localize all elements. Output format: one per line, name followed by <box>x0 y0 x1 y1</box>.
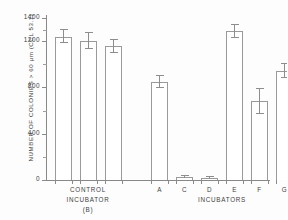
bar-chart-figure: NUMBER OF COLONIES > 60 µm (CCL 53.1) 14… <box>0 0 287 220</box>
x-tick-control-2-left <box>80 180 81 184</box>
error-cap-bottom-control-2 <box>85 48 93 49</box>
bar-control-1 <box>55 37 72 181</box>
x-tick-control-3-right <box>122 180 123 184</box>
y-tick-label-1400: 1400 <box>24 13 40 20</box>
error-bar-incubator-d <box>209 177 210 179</box>
x-label-c: C <box>176 186 193 193</box>
error-cap-bottom-incubator-g <box>281 77 288 78</box>
error-bar-control-2 <box>88 33 89 49</box>
x-tick-d-left <box>201 180 202 184</box>
error-cap-top-incubator-f <box>256 88 264 89</box>
y-tick-label-0: 0 <box>36 175 40 182</box>
bar-incubator-g <box>276 71 287 180</box>
x-tick-control-1-left <box>55 180 56 184</box>
x-tick-control-3-left <box>105 180 106 184</box>
error-cap-top-control-2 <box>85 32 93 33</box>
y-tick-1400: 1400 <box>42 18 47 19</box>
y-tick-label-1200: 1200 <box>24 36 40 43</box>
y-tick-0: 0 <box>42 180 47 181</box>
y-tick-label-400: 400 <box>28 129 40 136</box>
error-cap-bottom-incubator-a <box>156 87 164 88</box>
y-tick-400: 400 <box>42 134 47 135</box>
plot-area: 1400 1200 800 400 0 <box>46 18 270 180</box>
x-label-f: F <box>251 186 268 193</box>
y-tick-label-800: 800 <box>28 82 40 89</box>
y-tick-1200: 1200 <box>42 41 47 42</box>
error-bar-incubator-f <box>259 89 260 115</box>
group-caption-control-line3: (B) <box>38 206 138 213</box>
x-tick-a-right <box>168 180 169 184</box>
x-tick-e-right <box>243 180 244 184</box>
group-caption-control-line2: INCUBATOR <box>38 196 138 203</box>
y-axis-line <box>46 15 47 180</box>
y-tick-minor-600 <box>43 111 47 112</box>
x-tick-f-right <box>268 180 269 184</box>
error-bar-incubator-c <box>184 176 185 178</box>
y-tick-minor-1300 <box>43 30 47 31</box>
x-label-d: D <box>201 186 218 193</box>
error-cap-top-control-1 <box>60 29 68 30</box>
error-cap-bottom-incubator-e <box>231 37 239 38</box>
error-cap-top-incubator-e <box>231 24 239 25</box>
x-tick-g-left <box>276 180 277 184</box>
x-tick-d-right <box>218 180 219 184</box>
error-cap-top-incubator-c <box>181 175 189 176</box>
error-cap-top-incubator-a <box>156 75 164 76</box>
x-label-e: E <box>226 186 243 193</box>
error-cap-top-incubator-d <box>206 176 214 177</box>
bar-control-2 <box>80 41 97 180</box>
bar-incubator-a <box>151 82 168 180</box>
group-caption-control-line1: CONTROL <box>38 186 138 193</box>
x-tick-c-left <box>176 180 177 184</box>
x-label-a: A <box>151 186 168 193</box>
error-bar-incubator-g <box>284 64 285 78</box>
x-tick-a-left <box>151 180 152 184</box>
bar-incubator-e <box>226 31 243 180</box>
error-cap-top-incubator-g <box>281 63 288 64</box>
x-tick-f-left <box>251 180 252 184</box>
error-cap-bottom-control-1 <box>60 42 68 43</box>
group-caption-incubators: INCUBATORS <box>162 196 282 203</box>
x-tick-c-right <box>193 180 194 184</box>
x-tick-control-2-right <box>97 180 98 184</box>
bar-control-3 <box>105 46 122 180</box>
y-tick-800: 800 <box>42 87 47 88</box>
error-cap-top-control-3 <box>110 39 118 40</box>
x-tick-control-1-right <box>72 180 73 184</box>
x-label-g: G <box>276 186 287 193</box>
x-tick-e-left <box>226 180 227 184</box>
error-cap-bottom-control-3 <box>110 52 118 53</box>
y-tick-minor-200 <box>43 157 47 158</box>
error-cap-bottom-incubator-f <box>256 113 264 114</box>
y-tick-minor-1000 <box>43 64 47 65</box>
